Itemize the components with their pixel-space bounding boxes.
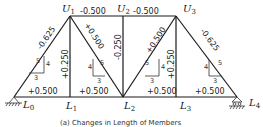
node-l2: L2 [123, 100, 135, 113]
slope-triangle-1: 5 4 3 [29, 56, 50, 82]
svg-text:5: 5 [100, 59, 104, 67]
node-l1: L1 [65, 100, 77, 113]
svg-text:4: 4 [88, 63, 92, 71]
svg-text:3: 3 [34, 74, 38, 82]
label-u1-u2: -0.500 [80, 7, 106, 16]
svg-text:5: 5 [145, 59, 149, 67]
label-u3-l3: +0.250 [167, 49, 176, 79]
label-l0-l1: +0.500 [28, 87, 58, 96]
svg-text:4: 4 [161, 63, 165, 71]
node-u3: U3 [183, 3, 196, 16]
slope-triangle-3: 5 4 3 [145, 59, 165, 85]
label-u2-l2: -0.250 [114, 34, 123, 60]
node-l4: L4 [248, 97, 261, 110]
pin-support-icon [5, 97, 22, 106]
label-l3-l4: +0.500 [195, 87, 225, 96]
node-u2: U2 [117, 3, 130, 16]
node-l3: L3 [179, 100, 191, 113]
label-u3-l4: -0.625 [198, 27, 221, 53]
svg-text:5: 5 [36, 57, 40, 65]
truss-diagram: 5 4 3 5 4 3 5 4 3 5 4 3 -0.500 -0.500 -0… [0, 0, 263, 127]
svg-text:3: 3 [150, 77, 154, 85]
slope-triangle-4: 5 4 3 [204, 59, 222, 85]
label-u1-l2: +0.500 [82, 21, 106, 51]
slope-triangle-2: 5 4 3 [88, 59, 105, 85]
svg-text:4: 4 [204, 63, 208, 71]
member-labels: -0.500 -0.500 -0.625 -0.625 +0.500 +0.50… [28, 7, 225, 96]
figure-caption: (a) Changes in Length of Members [60, 119, 181, 127]
node-u1: U1 [62, 3, 75, 16]
label-l2-u3: +0.500 [144, 25, 168, 55]
svg-text:3: 3 [213, 77, 217, 85]
label-u1-l1: +0.250 [61, 49, 70, 79]
label-u2-u3: -0.500 [133, 7, 159, 16]
svg-text:3: 3 [97, 77, 101, 85]
node-l0: L0 [22, 99, 34, 112]
svg-text:4: 4 [46, 60, 50, 68]
label-l2-l3: +0.500 [147, 87, 177, 96]
roller-support-icon [229, 97, 245, 109]
label-l1-l2: +0.500 [79, 87, 109, 96]
svg-text:5: 5 [218, 59, 222, 67]
